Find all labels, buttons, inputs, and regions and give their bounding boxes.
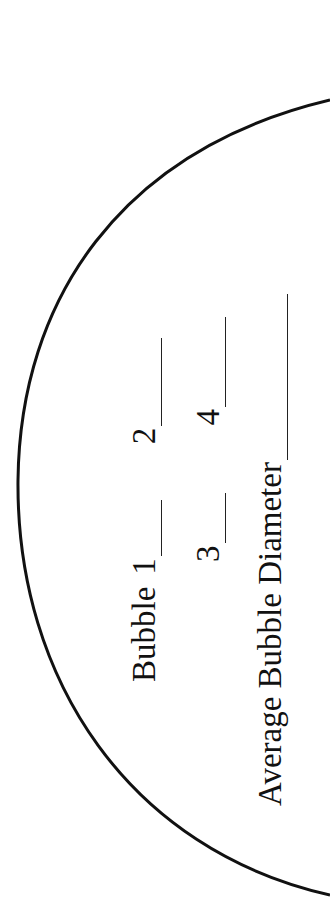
average-row: Average Bubble Diameter <box>252 294 288 806</box>
bubble-3-input[interactable] <box>195 494 226 544</box>
bubble-2-input[interactable] <box>131 338 162 426</box>
bubble-2-label: 2 <box>126 428 162 445</box>
bubble-1-input[interactable] <box>131 500 162 556</box>
bubble-row-2: 3 4 <box>190 317 226 562</box>
bubble-4-label: 4 <box>190 409 226 426</box>
average-diameter-input[interactable] <box>257 294 288 460</box>
bubble-label: Bubble <box>126 587 162 682</box>
bubble-row-1: Bubble 1 2 <box>126 338 162 682</box>
bubble-1-label: 1 <box>126 558 162 575</box>
bubble-3-label: 3 <box>190 546 226 563</box>
bubble-4-input[interactable] <box>195 317 226 407</box>
average-diameter-label: Average Bubble Diameter <box>252 462 288 806</box>
